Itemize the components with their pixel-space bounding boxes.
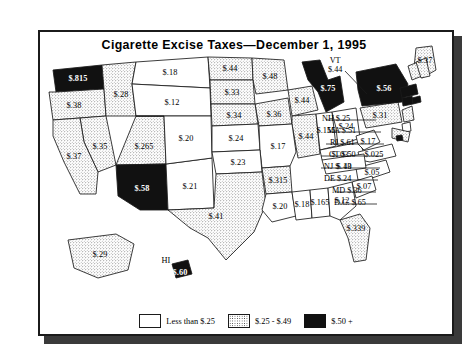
state-nj [402,106,414,122]
state-label-ca: $.37 [67,152,82,161]
state-label-mi: $.75 [321,84,336,93]
callout-vt-value: $.44 [328,65,342,74]
legend-label-white: Less than $.25 [166,317,215,326]
state-label-ms: $.18 [295,200,310,209]
callout-nh: NH $.25 [322,114,350,123]
callout-ma: MA $.51 [327,126,356,135]
map-figure: Cigarette Excise Taxes—December 1, 1995 … [0,0,468,361]
state-label-nc: $.05 [365,168,380,177]
state-label-wi: $.44 [295,96,310,105]
legend-item: Less than $.25 [139,314,215,328]
callout-ri: RI $.61 [330,138,355,147]
state-dc [396,135,403,141]
state-label-mn: $.48 [263,72,278,81]
us-map-svg [40,32,452,300]
state-ct [402,96,413,106]
state-label-nd: $.44 [223,64,238,73]
callout-vt: VT$.44 [328,56,342,74]
state-label-sd: $.33 [225,88,240,97]
state-label-ak: $.29 [93,250,108,259]
callout-ct: CT $.50 [329,150,356,159]
state-label-wv: $.17 [361,137,376,146]
state-label-ia: $.36 [267,110,282,119]
state-label-id: $.28 [114,90,129,99]
state-label-pa: $.31 [373,111,388,120]
state-label-tx: $.41 [209,212,224,221]
legend-item: $.50 + [304,314,352,328]
state-ri [412,96,421,104]
state-label-mo: $.17 [271,142,286,151]
callout-de: DE $.24 [324,174,351,183]
map-legend: Less than $.25 $.25 - $.49 $.50 + [38,306,454,336]
state-label-ne: $.34 [227,111,242,120]
state-label-wy: $.12 [165,98,180,107]
state-label-va: $.025 [364,150,383,159]
callout-md: MD $.36 [332,186,362,195]
state-label-al: $.165 [310,198,329,207]
legend-label-stipple: $.25 - $.49 [255,317,291,326]
state-label-hi: $.60 [173,268,188,277]
legend-swatch-white [139,314,161,328]
state-label-nm: $.21 [183,182,198,191]
legend-swatch-black [304,314,326,328]
state-label-il: $.44 [299,132,314,141]
callout-nj: NJ $. 40 [324,162,352,171]
legend-label-black: $.50 + [331,317,352,326]
state-label-ok: $.23 [231,158,246,167]
state-label-la: $.20 [273,202,288,211]
state-label-mt: $.18 [163,68,178,77]
callout-dc: D.C. $.65 [334,198,366,207]
callout-vt-code: VT [328,56,342,65]
state-label-ut: $.265 [134,142,153,151]
state-label-nv: $.35 [93,142,108,151]
state-label-or: $.38 [67,101,82,110]
state-label-ks: $.24 [229,134,244,143]
state-label-ar: $.315 [268,176,287,185]
state-label-co: $.20 [179,134,194,143]
legend-swatch-stipple [228,314,250,328]
state-label-hi-code: HI [162,256,171,265]
state-ut [116,116,166,165]
legend-item: $.25 - $.49 [228,314,291,328]
state-label-az: $.58 [135,184,150,193]
us-map: $.815$.38$.28$.18$.44$.48$.44$.75$.35$.2… [40,32,452,300]
state-label-fl: $.339 [346,224,365,233]
state-fl [340,214,370,262]
state-label-wa: $.815 [68,74,87,83]
state-label-me: $.37 [418,56,433,65]
state-label-ny: $.56 [377,84,392,93]
